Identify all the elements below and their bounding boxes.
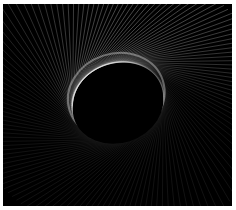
artwork-canvas bbox=[3, 4, 232, 206]
string-art-pattern bbox=[3, 4, 232, 206]
